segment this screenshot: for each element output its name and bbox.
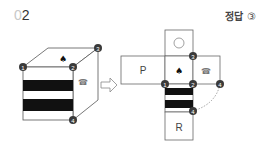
arrow-right-icon <box>101 78 117 92</box>
cube-spade-icon: ♠ <box>59 54 67 64</box>
cube-phone-icon: ☎ <box>78 78 88 87</box>
net-vertex-3: 3 <box>189 52 197 60</box>
cube-front-stripe-1 <box>23 80 73 91</box>
cube-vertex-1: 1 <box>19 63 27 71</box>
net-letter-r: R <box>175 122 182 133</box>
net-phone-icon: ☎ <box>201 67 211 76</box>
net-spade-icon: ♠ <box>175 66 183 76</box>
cube-vertex-2: 2 <box>69 63 77 71</box>
net-face-top <box>165 30 193 56</box>
diagram-canvas: ♠ ☎ 1 2 3 4 P ♠ ☎ R 3 <box>0 0 272 150</box>
net-stripe-2 <box>165 100 193 108</box>
cube-front-face <box>23 67 73 120</box>
net-fold-arc <box>193 84 220 111</box>
net-vertex-1: 1 <box>161 80 169 88</box>
net-vertex-4a: 4 <box>216 80 224 88</box>
net-vertex-2: 2 <box>189 80 197 88</box>
cube-vertex-3: 3 <box>94 44 102 52</box>
net <box>121 30 220 140</box>
net-stripe-1 <box>165 88 193 95</box>
cube-front-stripe-2 <box>23 99 73 111</box>
net-vertex-4b: 4 <box>189 107 197 115</box>
cube-vertex-4: 4 <box>69 116 77 124</box>
net-letter-p: P <box>140 65 147 76</box>
